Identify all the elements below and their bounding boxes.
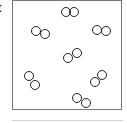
diatomic-molecule <box>32 27 50 39</box>
molecules-layer <box>0 0 127 123</box>
atom-circle <box>102 27 111 36</box>
atom-circle <box>32 27 41 36</box>
atom-circle <box>73 49 82 58</box>
divider-line <box>12 120 123 121</box>
atom-circle <box>31 81 40 90</box>
atom-circle <box>64 54 73 63</box>
atom-circle <box>82 99 91 108</box>
diatomic-molecule <box>64 49 82 63</box>
atom-circle <box>73 94 82 103</box>
atom-circle <box>25 72 34 81</box>
atom-circle <box>91 78 100 87</box>
diatomic-molecule <box>93 26 111 36</box>
atom-circle <box>98 71 107 80</box>
atom-circle <box>93 26 102 35</box>
diatomic-molecule <box>73 94 91 108</box>
diatomic-molecule <box>91 71 107 87</box>
atom-circle <box>41 30 50 39</box>
diatomic-molecule <box>62 8 79 17</box>
diatomic-molecule <box>25 72 40 90</box>
